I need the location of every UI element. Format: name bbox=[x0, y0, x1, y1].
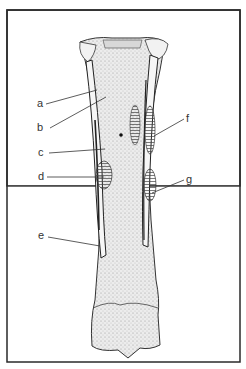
leader-f bbox=[154, 119, 184, 136]
region-d bbox=[96, 161, 112, 189]
region-g bbox=[144, 169, 156, 201]
label-d: d bbox=[38, 171, 44, 182]
label-e: e bbox=[38, 230, 44, 241]
region-f-left bbox=[130, 105, 140, 145]
nutrient-foramen bbox=[119, 133, 123, 137]
label-a: a bbox=[37, 98, 43, 109]
label-c: c bbox=[38, 147, 44, 158]
label-b: b bbox=[37, 122, 43, 133]
label-g: g bbox=[186, 174, 192, 185]
figure-container: a b c d e f g bbox=[0, 0, 246, 369]
bone-illustration bbox=[0, 0, 246, 369]
leader-e bbox=[48, 237, 100, 246]
label-f: f bbox=[186, 113, 189, 124]
region-f bbox=[145, 106, 155, 154]
